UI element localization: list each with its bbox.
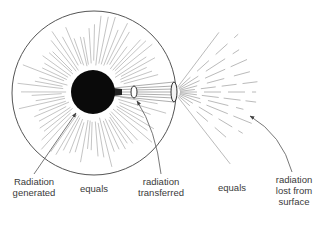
label-radiation-lost: radiation lost from surface bbox=[268, 174, 320, 207]
transfer-cone bbox=[114, 82, 174, 102]
leader-lost bbox=[250, 116, 292, 172]
label-radiation-transferred: radiation transferred bbox=[131, 176, 191, 198]
label-radiation-generated: Radiation generated bbox=[8, 176, 60, 198]
surface-ellipse bbox=[171, 82, 177, 102]
label-line: surface bbox=[268, 196, 320, 207]
core-sphere bbox=[71, 70, 115, 114]
label-line: equals bbox=[74, 183, 114, 194]
label-equals-2: equals bbox=[212, 182, 252, 193]
label-line: radiation bbox=[131, 176, 191, 187]
label-line: equals bbox=[212, 182, 252, 193]
inner-ellipse bbox=[131, 86, 137, 98]
label-line: lost from bbox=[268, 185, 320, 196]
escaping-radiation-rays bbox=[178, 32, 258, 164]
leader-transferred bbox=[137, 101, 161, 174]
label-line: transferred bbox=[131, 187, 191, 198]
label-equals-1: equals bbox=[74, 183, 114, 194]
label-line: generated bbox=[8, 187, 60, 198]
label-line: radiation bbox=[268, 174, 320, 185]
label-line: Radiation bbox=[8, 176, 60, 187]
